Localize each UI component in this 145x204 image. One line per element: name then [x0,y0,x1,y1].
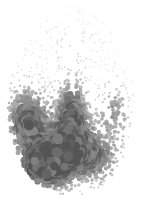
brain-dot-density-figure [0,0,145,204]
scatter-plot-canvas [0,0,145,204]
